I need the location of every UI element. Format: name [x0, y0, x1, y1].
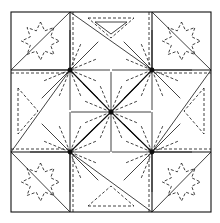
star-ray [42, 124, 70, 152]
diagonal-seam [70, 70, 111, 112]
star-ray [152, 124, 180, 152]
star-ray [124, 152, 152, 180]
edge-triangle-left [18, 88, 38, 134]
pinwheel-edge [152, 152, 211, 212]
edge-triangle-right [184, 88, 204, 134]
quilt-pattern [0, 0, 220, 223]
diagonal-seam [70, 112, 111, 152]
pinwheel-edge [152, 12, 211, 70]
diagonal-seam [111, 70, 152, 112]
pinwheel-edge [11, 70, 70, 152]
diagonal-seam [111, 112, 152, 152]
pinwheel-edge [11, 152, 70, 212]
pinwheel-edge [70, 152, 152, 212]
pinwheel-edge [152, 70, 211, 152]
pinwheel-edge [70, 12, 152, 70]
star-ray [70, 42, 98, 70]
star-ray [124, 42, 152, 70]
star-ray [42, 70, 70, 98]
edge-triangle-bottom [88, 186, 134, 206]
pinwheel-edge [11, 12, 70, 70]
star-ray [70, 152, 98, 180]
edge-triangle-top [88, 18, 134, 38]
star-ray [152, 70, 180, 98]
